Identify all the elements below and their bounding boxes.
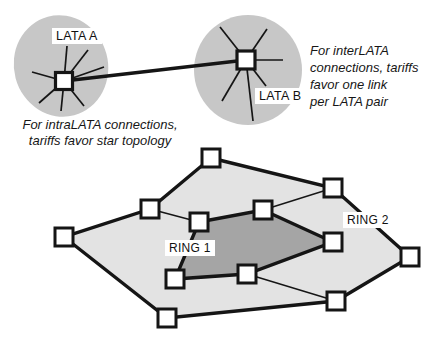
interlata-caption-line4: per LATA pair — [310, 93, 418, 110]
ring2-node — [202, 149, 220, 167]
lata-b-hub-node — [237, 51, 255, 69]
interlata-caption-line3: favor one link — [310, 76, 418, 93]
interlata-caption-line1: For interLATA — [310, 42, 418, 59]
ring2-node — [141, 200, 159, 218]
ring2-label: RING 2 — [343, 212, 393, 228]
intralata-caption: For intraLATA connections, tariffs favor… — [6, 117, 194, 149]
interlata-caption: For interLATA connections, tariffs favor… — [310, 42, 418, 110]
ring2-node — [158, 309, 176, 327]
lata-a-label: LATA A — [52, 28, 102, 44]
ring1-node — [324, 233, 342, 251]
ring1-label: RING 1 — [165, 240, 215, 256]
interlata-caption-line2: connections, tariffs — [310, 59, 418, 76]
figure-canvas: LATA A LATA B RING 1 RING 2 For intraLAT… — [0, 0, 439, 343]
ring1-node — [238, 265, 256, 283]
ring1-node — [190, 213, 208, 231]
lata-b-label: LATA B — [255, 88, 305, 104]
intralata-caption-line1: For intraLATA connections, — [6, 117, 194, 133]
intralata-caption-line2: tariffs favor star topology — [6, 133, 194, 149]
lata-a-hub-node — [56, 73, 73, 90]
ring2-node — [327, 292, 345, 310]
ring2-node — [401, 248, 419, 266]
ring1-node — [254, 201, 272, 219]
ring2-node — [324, 179, 342, 197]
ring1-node — [166, 270, 184, 288]
ring2-node — [55, 228, 73, 246]
